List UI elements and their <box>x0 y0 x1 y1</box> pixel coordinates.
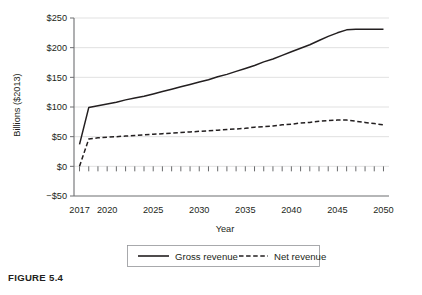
y-tick-label-200: $200 <box>47 43 67 53</box>
x-axis-minor-ticks <box>80 166 384 171</box>
gridlines-group <box>74 18 389 166</box>
y-tick-label-250: $250 <box>47 13 67 23</box>
y-axis-tick-labels: −$50$0$50$100$150$200$250 <box>46 13 67 201</box>
y-tick-label-0: $0 <box>57 162 67 172</box>
x-tick-label-2030: 2030 <box>189 205 209 215</box>
x-axis-title: Year <box>216 224 235 234</box>
y-axis-title: Billions ($2013) <box>12 73 22 136</box>
y-tick-label-50: $50 <box>52 132 67 142</box>
x-tick-label-2045: 2045 <box>327 205 347 215</box>
figure-caption: FIGURE 5.4 <box>8 272 63 283</box>
x-axis-tick-labels: 20172020202520302035204020452050 <box>69 205 393 215</box>
y-tick-label--50: −$50 <box>46 191 67 201</box>
legend-label-net-revenue: Net revenue <box>274 251 326 262</box>
x-tick-label-2020: 2020 <box>97 205 117 215</box>
y-tick-label-100: $100 <box>47 102 67 112</box>
x-tick-label-2025: 2025 <box>143 205 163 215</box>
chart-legend: Gross revenue Net revenue <box>128 246 327 267</box>
legend-label-gross-revenue: Gross revenue <box>175 251 238 262</box>
x-tick-label-2040: 2040 <box>281 205 301 215</box>
series-line-gross-revenue <box>80 29 384 144</box>
figure-container: −$50$0$50$100$150$200$250 20172020202520… <box>0 0 422 295</box>
x-tick-label-2050: 2050 <box>373 205 393 215</box>
y-tick-label-150: $150 <box>47 73 67 83</box>
x-tick-label-2035: 2035 <box>235 205 255 215</box>
x-tick-label-2017: 2017 <box>69 205 89 215</box>
revenue-line-chart: −$50$0$50$100$150$200$250 20172020202520… <box>0 0 422 295</box>
y-axis-tick-marks <box>70 18 74 196</box>
series-line-net-revenue <box>80 120 384 166</box>
